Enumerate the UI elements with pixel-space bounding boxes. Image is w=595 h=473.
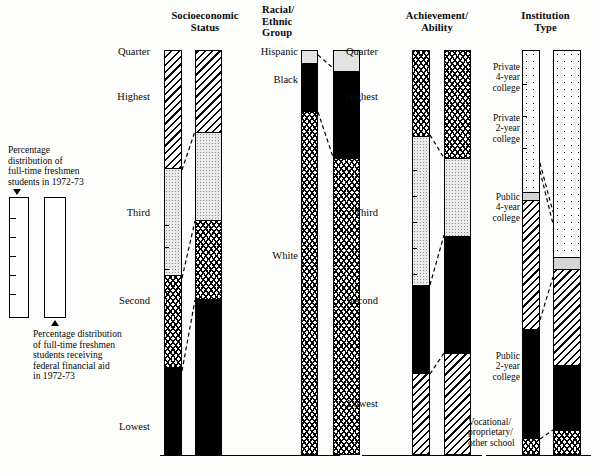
baseline-right — [486, 455, 591, 456]
baseline-mid — [362, 455, 482, 456]
inst-leader-lines — [0, 0, 595, 473]
figure-canvas: Percentage distribution of full-time fre… — [0, 0, 595, 473]
baseline-left — [160, 455, 340, 456]
